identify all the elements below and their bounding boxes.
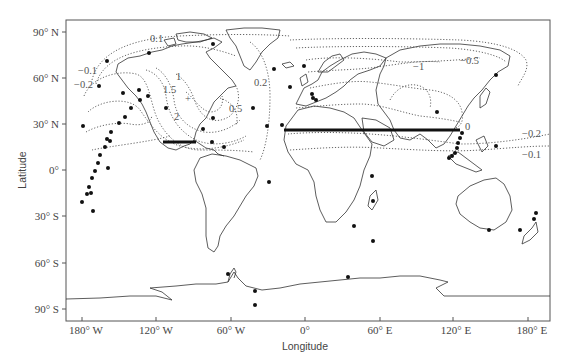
lat-tick-label: 60° N [33, 72, 59, 84]
contour-label: −0.2 [74, 79, 93, 90]
lat-tick-label: 0° [49, 164, 59, 176]
contour-label: 1 [176, 71, 181, 82]
lat-tick-label: 60° S [35, 257, 59, 269]
lat-tick-label: 90° S [35, 303, 59, 315]
contour-label: −0.2 [522, 128, 541, 139]
contour-label: + [185, 93, 191, 104]
contour-label: 0.5 [229, 103, 242, 114]
contour-label: −0.1 [78, 65, 97, 76]
contour-label: 0.2 [254, 77, 267, 88]
contour-label: −0.5 [460, 55, 479, 66]
stations [80, 42, 538, 307]
contour-label: 1.5 [163, 84, 176, 95]
contour-label: −1 [413, 61, 424, 72]
coastlines [66, 28, 550, 300]
latitude-axis: 90° N 60° N 30° N 0° 30° S 60° S 90° S L… [16, 26, 66, 315]
contour-label: 0 [465, 121, 470, 132]
lon-tick-label: 180° W [69, 324, 103, 336]
world-map-figure: 0.1 −0.1 −0.2 1 1.5 + 2 0.2 0.5 −1 −0.5 … [0, 0, 565, 364]
lon-tick-label: 120° W [139, 324, 173, 336]
lon-tick-label: 60° W [217, 324, 246, 336]
contour-labels: 0.1 −0.1 −0.2 1 1.5 + 2 0.2 0.5 −1 −0.5 … [74, 33, 541, 160]
lon-tick-label: 0° [300, 324, 310, 336]
lon-tick-label: 180° E [517, 324, 548, 336]
lat-tick-label: 30° N [33, 118, 59, 130]
contour-label: 2 [174, 111, 179, 122]
contour-label: 0.1 [150, 33, 163, 44]
lon-tick-label: 60° E [368, 324, 393, 336]
lat-tick-label: 90° N [33, 26, 59, 38]
contour-label: −0.1 [522, 149, 541, 160]
longitude-axis: 180° W 120° W 60° W 0° 60° E 120° E 180°… [69, 317, 547, 352]
lon-tick-label: 120° E [441, 324, 472, 336]
lat-tick-label: 30° S [35, 210, 59, 222]
x-axis-label: Longitude [282, 340, 328, 352]
y-axis-label: Latitude [16, 151, 28, 189]
